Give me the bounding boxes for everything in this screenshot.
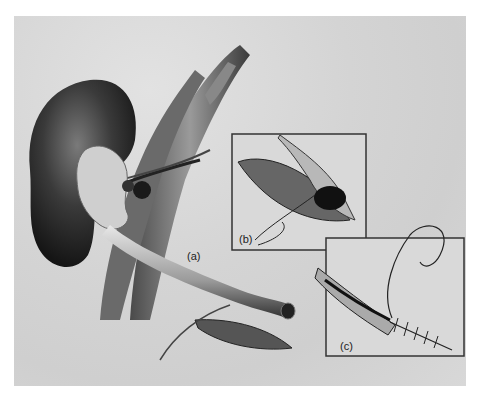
label-c: (c) [340, 340, 353, 352]
inset-c [315, 226, 464, 356]
label-b: (b) [239, 233, 252, 245]
illustration [0, 0, 479, 395]
label-a: (a) [187, 250, 200, 262]
